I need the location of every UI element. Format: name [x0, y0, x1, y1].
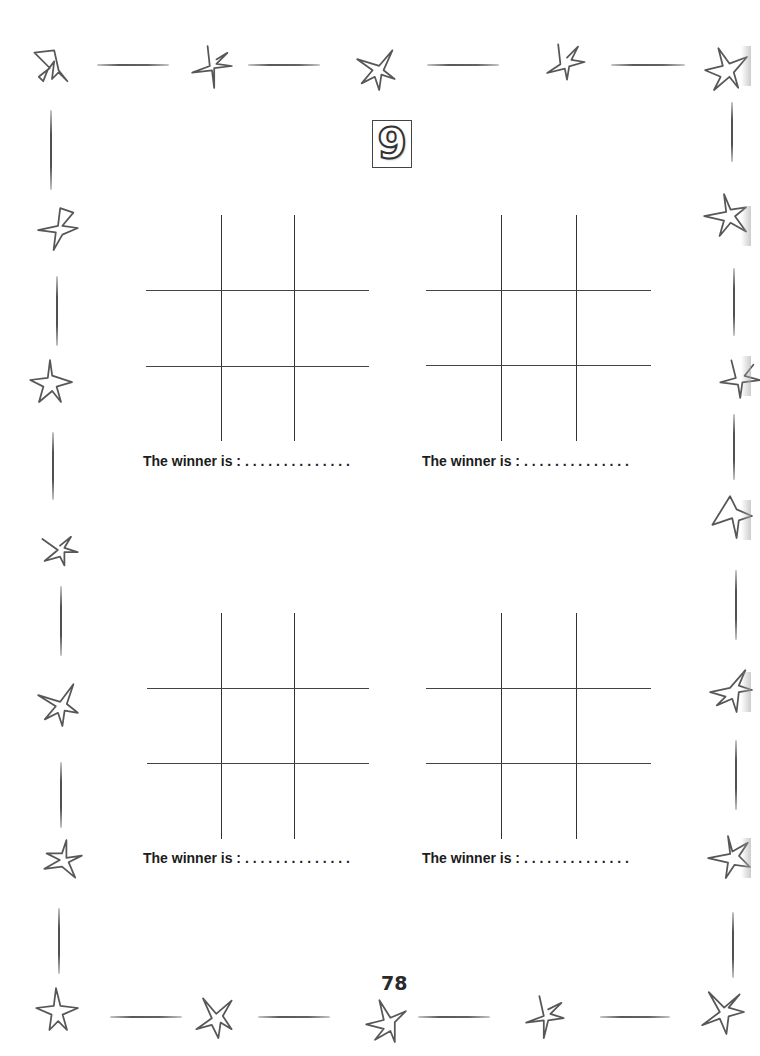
star-icon: [190, 44, 234, 88]
border-dash: [731, 102, 733, 162]
winner-blank[interactable]: . . . . . . . . . . . . . .: [245, 453, 350, 469]
page-edge-shadow: [741, 46, 751, 86]
tic-tac-toe-board-2[interactable]: [426, 215, 651, 441]
border-dash: [427, 64, 499, 66]
winner-label: The winner is :: [143, 850, 241, 866]
star-icon: [702, 192, 746, 236]
star-icon: [40, 838, 84, 882]
star-icon: [700, 990, 744, 1034]
tic-tac-toe-board-3[interactable]: [147, 613, 369, 839]
grid-line: [147, 763, 369, 764]
border-dash: [248, 64, 320, 66]
border-dash: [600, 1016, 670, 1018]
grid-line: [146, 290, 369, 291]
page-number: 78: [381, 972, 407, 994]
star-icon: [34, 986, 78, 1030]
winner-label: The winner is :: [143, 453, 241, 469]
border-dash: [60, 586, 62, 656]
border-dash: [611, 64, 685, 66]
border-dash: [50, 110, 52, 190]
winner-label: The winner is :: [422, 850, 520, 866]
page-edge-shadow: [741, 672, 751, 712]
star-icon: [30, 46, 74, 90]
border-dash: [733, 414, 735, 480]
grid-line: [221, 613, 222, 839]
star-icon: [36, 682, 80, 726]
border-dash: [110, 1016, 182, 1018]
border-dash: [258, 1016, 330, 1018]
tic-tac-toe-board-1[interactable]: [146, 215, 369, 441]
grid-line: [576, 215, 577, 441]
page-edge-shadow: [741, 206, 751, 246]
grid-line: [294, 613, 295, 839]
border-dash: [733, 268, 735, 336]
star-icon: [38, 528, 82, 572]
border-dash: [732, 912, 734, 978]
grid-line: [426, 365, 651, 366]
border-dash: [52, 432, 54, 500]
border-dash: [60, 762, 62, 828]
border-dash: [56, 276, 58, 346]
star-icon: [36, 206, 80, 250]
grid-line: [294, 215, 295, 441]
grid-line: [501, 215, 502, 441]
winner-blank[interactable]: . . . . . . . . . . . . . .: [524, 850, 629, 866]
border-dash: [735, 570, 737, 640]
page-edge-shadow: [741, 838, 751, 878]
activity-number: 9: [377, 123, 406, 165]
grid-line: [426, 688, 651, 689]
winner-line-3[interactable]: The winner is : . . . . . . . . . . . . …: [143, 850, 350, 866]
grid-line: [426, 290, 651, 291]
grid-line: [426, 763, 651, 764]
grid-line: [501, 613, 502, 839]
star-icon: [524, 994, 568, 1038]
winner-blank[interactable]: . . . . . . . . . . . . . .: [524, 453, 629, 469]
page-edge-shadow: [741, 356, 751, 396]
star-icon: [355, 46, 399, 90]
border-dash: [97, 64, 169, 66]
star-icon: [364, 998, 408, 1042]
winner-label: The winner is :: [422, 453, 520, 469]
page-edge-shadow: [741, 500, 751, 540]
grid-line: [146, 366, 369, 367]
star-icon: [545, 40, 589, 84]
winner-blank[interactable]: . . . . . . . . . . . . . .: [245, 850, 350, 866]
activity-number-badge: 9: [372, 120, 412, 168]
winner-line-1[interactable]: The winner is : . . . . . . . . . . . . …: [143, 453, 350, 469]
grid-line: [221, 215, 222, 441]
border-dash: [418, 1016, 490, 1018]
border-dash: [58, 908, 60, 974]
winner-line-2[interactable]: The winner is : . . . . . . . . . . . . …: [422, 453, 629, 469]
grid-line: [576, 613, 577, 839]
star-icon: [192, 994, 236, 1038]
winner-line-4[interactable]: The winner is : . . . . . . . . . . . . …: [422, 850, 629, 866]
tic-tac-toe-board-4[interactable]: [426, 613, 651, 839]
star-icon: [716, 356, 760, 400]
star-icon: [28, 358, 72, 402]
grid-line: [147, 688, 369, 689]
border-dash: [735, 740, 737, 810]
